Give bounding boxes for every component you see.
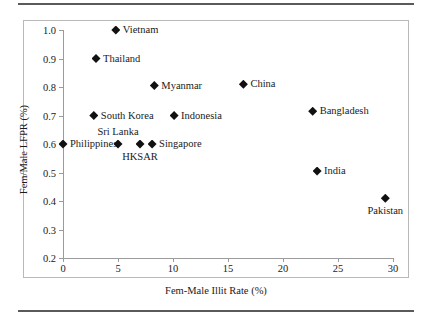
figure-top-rule [18,3,414,5]
x-tick-label: 25 [333,263,344,274]
diamond-marker-icon [150,81,159,90]
x-tick-label: 0 [60,263,65,274]
y-tick-label: 0.2 [36,253,56,264]
figure-container: 051015202530 0.20.30.40.50.60.70.80.91.0… [0,0,432,319]
diamond-marker-icon [308,107,317,116]
diamond-marker-icon [89,111,98,120]
data-point-label: Singapore [159,139,202,150]
x-tick-mark [393,258,394,262]
diamond-marker-icon [239,80,248,89]
data-point-label: Pakistan [368,206,404,217]
data-point-label: HKSAR [122,152,158,163]
data-point-label: South Korea [101,111,154,122]
diamond-marker-icon [313,167,322,176]
plot-area: VietnamThailandMyanmarChinaSouth KoreaIn… [63,30,393,258]
data-point-label: India [324,166,346,177]
diamond-marker-icon [136,140,145,149]
data-point-label: Philippines [70,139,117,150]
y-tick-label: 1.0 [36,25,56,36]
y-tick-label: 0.6 [36,139,56,150]
data-point-label: Sri Lanka [97,127,138,138]
diamond-marker-icon [381,194,390,203]
x-tick-mark [228,258,229,262]
diamond-marker-icon [92,54,101,63]
x-tick-label: 30 [388,263,399,274]
data-point-label: Thailand [103,54,140,65]
x-tick-mark [118,258,119,262]
x-tick-mark [283,258,284,262]
x-tick-mark [63,258,64,262]
x-tick-label: 10 [168,263,179,274]
figure-bottom-rule [18,310,414,312]
data-point-label: China [250,79,275,90]
data-point-label: Indonesia [181,111,222,122]
x-axis-title: Fem-Male Illit Rate (%) [0,285,432,296]
y-axis-title: Fem/Male LFPR (%) [18,75,29,225]
y-tick-label: 0.8 [36,82,56,93]
x-tick-mark [338,258,339,262]
x-tick-label: 5 [115,263,120,274]
x-tick-label: 15 [223,263,234,274]
diamond-marker-icon [148,140,157,149]
data-point-label: Bangladesh [320,106,369,117]
y-tick-label: 0.3 [36,224,56,235]
y-tick-label: 0.4 [36,196,56,207]
y-tick-label: 0.7 [36,110,56,121]
x-tick-mark [173,258,174,262]
data-point-label: Myanmar [161,81,202,92]
x-tick-label: 20 [278,263,289,274]
diamond-marker-icon [170,111,179,120]
y-tick-mark [59,258,63,259]
y-tick-label: 0.5 [36,167,56,178]
y-tick-label: 0.9 [36,53,56,64]
data-point-label: Vietnam [123,25,159,36]
